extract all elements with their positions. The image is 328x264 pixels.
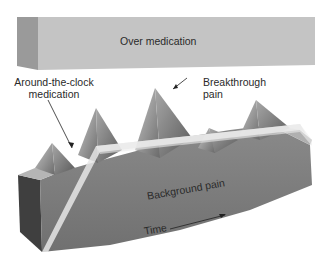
breakthrough-label-line2: pain bbox=[203, 88, 266, 100]
around-the-clock-label-line2: medication bbox=[14, 88, 94, 100]
breakthrough-arrow bbox=[173, 78, 187, 89]
breakthrough-pain-label: Breakthrough pain bbox=[203, 76, 266, 100]
around-the-clock-label: Around-the-clock medication bbox=[14, 76, 94, 100]
over-medication-label: Over medication bbox=[120, 35, 196, 47]
around-the-clock-arrow bbox=[48, 100, 74, 148]
breakthrough-label-line1: Breakthrough bbox=[203, 76, 266, 88]
around-the-clock-label-line1: Around-the-clock bbox=[14, 76, 94, 88]
